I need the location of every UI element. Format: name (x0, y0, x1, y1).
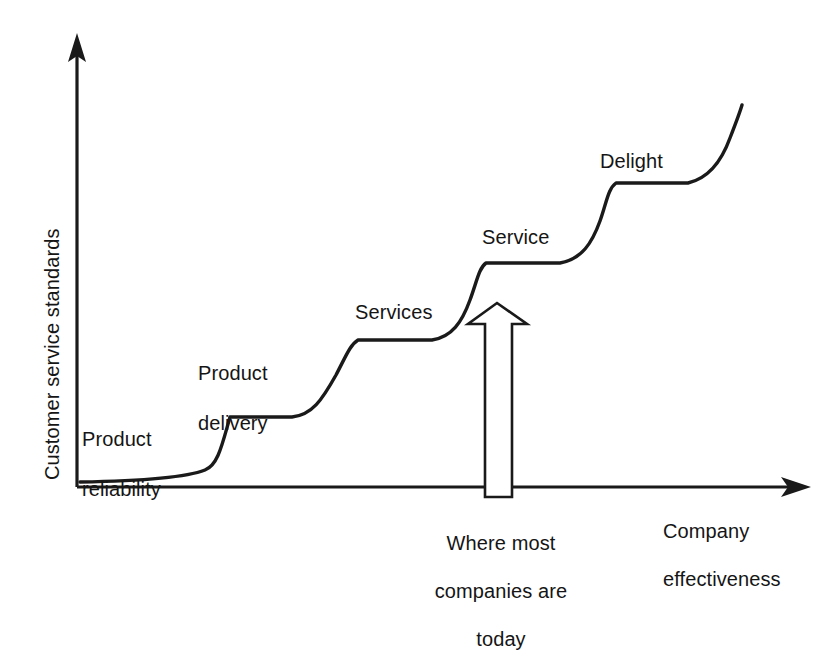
step-label-service: Service (482, 200, 602, 275)
today-marker-caption: Where most companies are today (406, 507, 596, 654)
step-label-services: Services (355, 275, 475, 350)
x-axis-title: Company effectiveness (663, 495, 781, 615)
step-label-services-line-1: Services (355, 300, 475, 325)
step-label-product-reliability-line-2: reliability (82, 477, 232, 502)
today-marker-caption-line-3: today (406, 627, 596, 651)
step-label-service-line-1: Service (482, 225, 602, 250)
x-axis-title-line-1: Company (663, 519, 781, 543)
step-label-product-delivery-line-1: Product (198, 361, 348, 386)
today-marker-arrow-icon (468, 303, 527, 497)
step-label-delight-line-1: Delight (600, 149, 720, 174)
step-label-product-delivery-line-2: delivery (198, 411, 348, 436)
y-axis-title: Customer service standards (40, 60, 64, 480)
today-marker-caption-line-1: Where most (406, 531, 596, 555)
x-axis-title-line-2: effectiveness (663, 567, 781, 591)
step-label-delight: Delight (600, 124, 720, 199)
today-marker-caption-line-2: companies are (406, 579, 596, 603)
step-label-product-delivery: Product delivery (198, 336, 348, 461)
